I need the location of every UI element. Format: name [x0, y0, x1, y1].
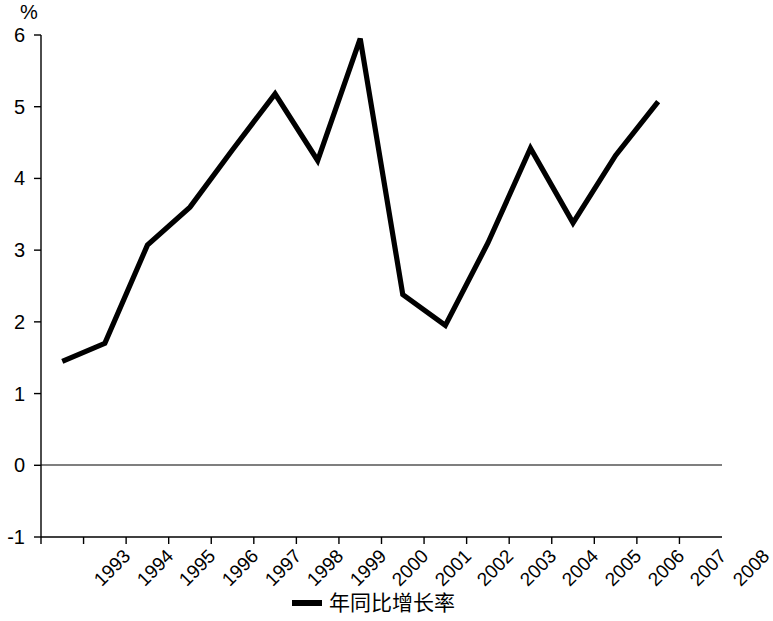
x-tick-marks [41, 537, 679, 544]
y-tick-label: 1 [0, 384, 25, 404]
y-tick-label: -1 [0, 527, 25, 547]
y-tick-label: 3 [0, 240, 25, 260]
y-tick-label: 5 [0, 97, 25, 117]
y-tick-label: 6 [0, 25, 25, 45]
y-tick-label: 4 [0, 168, 25, 188]
legend-label: 年同比增长率 [329, 592, 455, 613]
legend-line-swatch-icon [292, 600, 322, 606]
y-tick-label: 2 [0, 312, 25, 332]
y-tick-label: 0 [0, 455, 25, 475]
axis-group [41, 35, 722, 537]
y-tick-marks [34, 35, 41, 537]
series-line-year-on-year-growth-rate [62, 39, 658, 362]
chart-legend: 年同比增长率 [0, 592, 746, 613]
